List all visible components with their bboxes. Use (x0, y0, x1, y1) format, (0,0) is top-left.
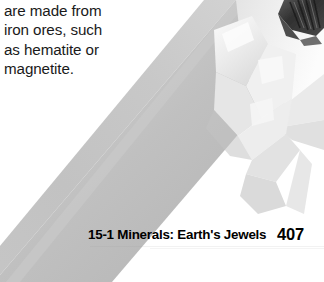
body-line-2: iron ores, such (4, 20, 154, 39)
body-line-3: as hematite or (4, 40, 154, 59)
body-paragraph: are made from iron ores, such as hematit… (4, 1, 154, 79)
body-line-1: are made from (4, 1, 154, 20)
body-line-4: magnetite. (4, 59, 154, 78)
footer-page-number: 407 (277, 225, 304, 244)
page-footer: 15-1 Minerals: Earth's Jewels 407 (0, 225, 324, 249)
textbook-page: are made from iron ores, such as hematit… (0, 0, 324, 282)
footer-section-label: 15-1 Minerals: Earth's Jewels (88, 227, 266, 242)
